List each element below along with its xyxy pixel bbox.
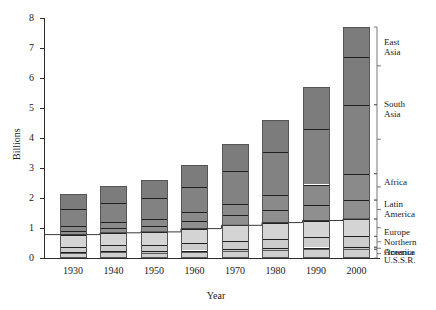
legend-brace (374, 236, 381, 247)
legend-brace (374, 174, 381, 200)
legend-brace (374, 249, 381, 258)
legend-brace-group (0, 0, 436, 310)
legend-brace (374, 105, 381, 174)
legend-brace (374, 200, 381, 219)
population-stacked-bar-chart: Billions Year 012345678 1930194019501960… (0, 0, 436, 310)
legend-brace (374, 27, 381, 105)
legend-brace (374, 219, 381, 236)
